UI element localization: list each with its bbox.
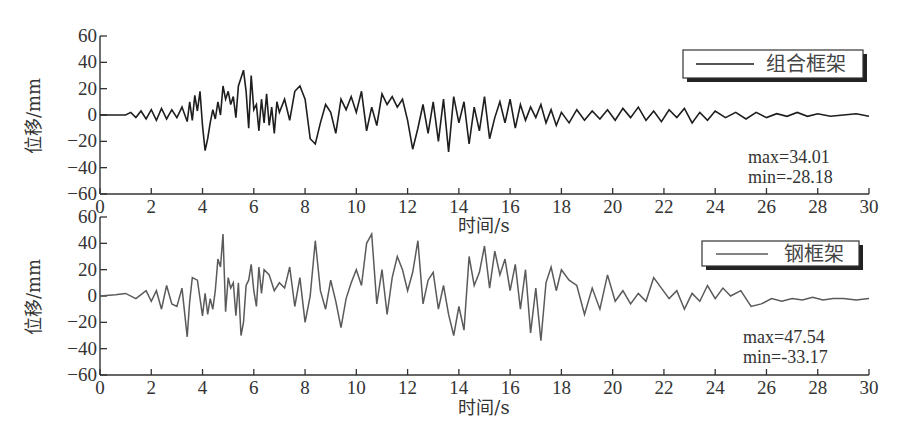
x-tick-label: 2 (147, 377, 157, 398)
x-tick-label: 4 (198, 377, 208, 398)
x-tick-label: 22 (654, 377, 673, 398)
bottom-min-annotation: min=-33.17 (743, 347, 828, 367)
y-tick-label: 20 (78, 259, 97, 280)
y-tick-label: 60 (78, 206, 97, 227)
top-panel: 6040200−20−40−60024681012141618202224262… (23, 25, 879, 236)
y-tick-label: 20 (78, 78, 97, 99)
y-tick-label: −40 (67, 338, 97, 359)
x-tick-label: 0 (95, 377, 105, 398)
y-tick-label: −60 (67, 183, 97, 204)
x-tick-label: 4 (198, 196, 208, 217)
chart-canvas: 6040200−20−40−60024681012141618202224262… (0, 0, 906, 444)
x-tick-label: 6 (249, 377, 259, 398)
x-tick-label: 8 (300, 377, 310, 398)
top-x-axis-label: 时间/s (458, 215, 509, 236)
x-tick-label: 10 (347, 377, 366, 398)
y-tick-label: 0 (88, 285, 98, 306)
x-tick-label: 18 (552, 377, 571, 398)
x-tick-label: 2 (147, 196, 157, 217)
top-y-axis-label: 位移/mm (23, 78, 44, 154)
y-tick-label: −60 (67, 364, 97, 385)
x-tick-label: 8 (300, 196, 310, 217)
x-tick-label: 10 (347, 196, 366, 217)
y-tick-label: −40 (67, 157, 97, 178)
y-tick-label: −20 (67, 130, 97, 151)
x-tick-label: 24 (706, 196, 726, 217)
x-tick-label: 20 (603, 377, 622, 398)
x-tick-label: 28 (808, 377, 827, 398)
x-tick-label: 18 (552, 196, 571, 217)
x-tick-label: 30 (860, 196, 879, 217)
bottom-panel: 6040200−20−40−60024681012141618202224262… (23, 206, 879, 418)
x-tick-label: 12 (398, 377, 417, 398)
x-tick-label: 26 (757, 196, 776, 217)
y-tick-label: 0 (88, 104, 98, 125)
top-min-annotation: min=-28.18 (748, 167, 833, 187)
bottom-y-axis-label: 位移/mm (23, 259, 44, 335)
bottom-x-axis-label: 时间/s (458, 397, 509, 418)
x-tick-label: 12 (398, 196, 417, 217)
bottom-legend-label: 钢框架 (784, 242, 844, 266)
x-tick-label: 30 (860, 377, 879, 398)
x-tick-label: 22 (654, 196, 673, 217)
x-tick-label: 26 (757, 377, 776, 398)
x-tick-label: 16 (501, 377, 520, 398)
top-max-annotation: max=34.01 (748, 147, 830, 167)
bottom-legend: 钢框架 (702, 241, 863, 270)
top-legend-label: 组合框架 (766, 52, 846, 76)
x-tick-label: 28 (808, 196, 827, 217)
top-legend: 组合框架 (683, 50, 867, 82)
x-tick-label: 14 (449, 377, 469, 398)
bottom-max-annotation: max=47.54 (743, 327, 825, 347)
x-tick-label: 16 (501, 196, 520, 217)
top-series-line (100, 70, 869, 152)
x-tick-label: 14 (449, 196, 469, 217)
x-tick-label: 20 (603, 196, 622, 217)
y-tick-label: 60 (78, 25, 97, 46)
y-tick-label: 40 (78, 51, 97, 72)
x-tick-label: 24 (706, 377, 726, 398)
y-tick-label: −20 (67, 311, 97, 332)
x-tick-label: 6 (249, 196, 259, 217)
y-tick-label: 40 (78, 232, 97, 253)
